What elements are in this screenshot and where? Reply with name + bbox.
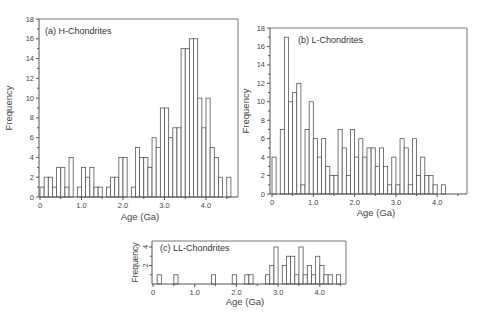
histogram-bar — [363, 157, 367, 194]
histogram-bar — [211, 275, 215, 284]
histogram-bar — [346, 176, 350, 194]
x-tick-label: 2.0 — [349, 198, 359, 207]
x-tick-label: 4.0 — [432, 198, 442, 207]
histogram-bar — [119, 157, 123, 197]
x-tick-label: 1.0 — [189, 288, 199, 297]
histogram-bar — [342, 148, 346, 194]
x-tick-label: 1.0 — [308, 198, 318, 207]
histogram-bar — [330, 176, 334, 194]
histogram-bar — [189, 39, 193, 197]
histogram-bar — [156, 148, 160, 197]
histogram-bar — [157, 275, 161, 284]
histogram-bar — [359, 139, 363, 194]
histogram-bar — [140, 157, 144, 197]
x-tick-label: 3.0 — [391, 198, 401, 207]
histogram-bar — [210, 148, 214, 197]
histogram-bar — [429, 176, 433, 194]
histogram-bar — [131, 187, 135, 197]
histogram-bar — [206, 98, 210, 197]
histogram-bar — [98, 187, 102, 197]
histogram-bar — [52, 187, 56, 197]
histogram-bar — [86, 177, 90, 197]
histogram-bar — [270, 266, 274, 285]
histogram-bar — [316, 256, 320, 284]
histogram-bar — [396, 185, 400, 194]
histogram-bar — [245, 275, 249, 284]
histogram-bar — [218, 177, 222, 197]
histogram-bar — [194, 39, 198, 197]
histogram-bar — [227, 177, 231, 197]
x-tick-label: 0 — [38, 201, 42, 210]
histogram-bar — [384, 166, 388, 194]
histogram-bar — [305, 129, 309, 194]
ll-chondrites-histogram: 2401.02.03.04.0(c) LL-ChondritesAge (Ga)… — [130, 241, 346, 307]
histogram-bar — [57, 167, 61, 197]
y-tick-label: 10 — [257, 97, 265, 106]
y-tick-label: 10 — [26, 94, 34, 103]
histogram-bar — [82, 167, 86, 197]
histogram-bar — [48, 177, 52, 197]
histogram-bar — [317, 157, 321, 194]
histogram-bar — [111, 177, 115, 197]
histogram-bar — [328, 275, 332, 284]
y-tick-label: 0 — [30, 193, 34, 202]
y-axis-label: Frequency — [240, 88, 251, 133]
y-tick-label: 16 — [26, 34, 34, 43]
y-tick-label: 2 — [141, 263, 150, 267]
y-tick-label: 8 — [30, 113, 34, 122]
histogram-bar — [375, 166, 379, 194]
histogram-bar — [379, 148, 383, 194]
y-tick-label: 12 — [257, 79, 265, 88]
histogram-bar — [309, 102, 313, 194]
histogram-bar — [152, 138, 156, 197]
y-tick-label: 16 — [257, 42, 265, 51]
histogram-bar — [297, 83, 301, 194]
x-tick-label: 3.0 — [159, 201, 169, 210]
y-tick-label: 14 — [26, 54, 34, 63]
histogram-bar — [174, 275, 178, 284]
histogram-bar — [284, 37, 288, 194]
histogram-bar — [202, 128, 206, 197]
histogram-bar — [160, 108, 164, 197]
x-axis-label: Age (Ga) — [357, 207, 396, 218]
panel-title: (a) H-Chondrites — [45, 26, 112, 36]
panel-title: (b) L-Chondrites — [298, 35, 364, 45]
histogram-bar — [90, 167, 94, 197]
histogram-bar — [106, 187, 110, 197]
histogram-bar — [280, 129, 284, 194]
histogram-bar — [272, 157, 276, 194]
histogram-bar — [425, 176, 429, 194]
histogram-bar — [282, 266, 286, 285]
histogram-bar — [181, 49, 185, 197]
histogram-bar — [404, 148, 408, 194]
h-chondrites-histogram: 02468101214161801.02.03.04.0(a) H-Chondr… — [3, 15, 238, 223]
y-tick-label: 18 — [257, 24, 265, 33]
x-axis-label: Age (Ga) — [226, 296, 265, 307]
histogram-bar — [293, 93, 297, 194]
histogram-bar — [148, 167, 152, 197]
histogram-bar — [232, 275, 236, 284]
y-tick-label: 18 — [26, 15, 34, 24]
histogram-bar — [334, 176, 338, 194]
histogram-bar — [311, 275, 315, 284]
histogram-bar — [324, 275, 328, 284]
histogram-bar — [94, 187, 98, 197]
y-axis-label: Frequency — [3, 85, 14, 130]
histogram-bar — [177, 128, 181, 197]
histogram-bar — [299, 247, 303, 284]
histogram-bar — [77, 187, 81, 197]
histogram-bar — [266, 275, 270, 284]
y-tick-label: 2 — [30, 173, 34, 182]
histogram-bar — [307, 266, 311, 285]
histogram-bar — [322, 139, 326, 194]
histogram-bar — [441, 185, 445, 194]
histogram-bar — [355, 157, 359, 194]
histogram-bar — [388, 185, 392, 194]
histogram-bar — [165, 108, 169, 197]
y-axis-label: Frequency — [130, 242, 140, 283]
histogram-bar — [367, 148, 371, 194]
y-tick-label: 12 — [26, 74, 34, 83]
y-tick-label: 4 — [30, 153, 34, 162]
x-tick-label: 4.0 — [201, 201, 211, 210]
y-tick-label: 4 — [141, 245, 150, 249]
